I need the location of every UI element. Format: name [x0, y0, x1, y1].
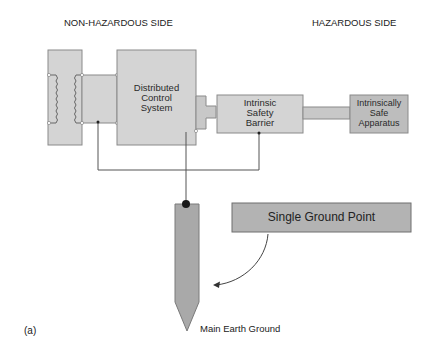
apparatus-label: Intrinsically Safe Apparatus [349, 98, 409, 128]
apparatus-label-line: Safe [349, 108, 409, 118]
ground-rod-icon [175, 204, 199, 331]
barrier-label-line: Barrier [217, 118, 303, 128]
single-ground-point-dot [182, 200, 190, 208]
apparatus-label-line: Apparatus [349, 118, 409, 128]
non-hazardous-heading: NON-HAZARDOUS SIDE [64, 17, 173, 28]
transformer-secondary-block [82, 75, 117, 123]
callout-arrow [216, 234, 268, 285]
callout-text: Single Ground Point [232, 210, 411, 224]
transformer-primary-block [48, 50, 82, 145]
arrow-head-icon [213, 282, 220, 289]
dcs-barrier-connector [196, 96, 216, 129]
ground-label: Main Earth Ground [200, 323, 280, 334]
dcs-label-line: System [117, 103, 196, 113]
diagram-canvas [0, 0, 433, 358]
figure-label: (a) [24, 325, 36, 336]
dcs-label: Distributed Control System [117, 83, 196, 113]
apparatus-label-line: Intrinsically [349, 98, 409, 108]
hazardous-cable [303, 107, 350, 119]
hazardous-heading: HAZARDOUS SIDE [312, 17, 396, 28]
barrier-label: Intrinsic Safety Barrier [217, 98, 303, 128]
